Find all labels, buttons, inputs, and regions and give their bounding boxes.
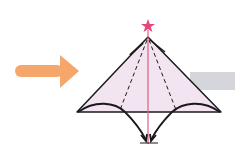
right-arrow-icon xyxy=(15,55,79,88)
origami-diagram xyxy=(0,0,235,156)
